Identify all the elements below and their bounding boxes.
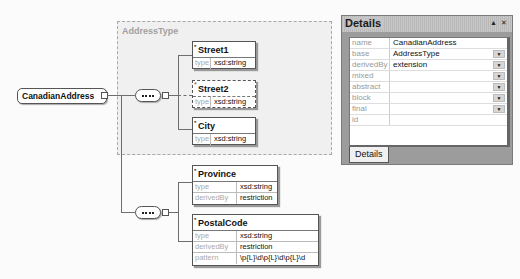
attr-value: restriction	[237, 193, 273, 204]
details-titlebar[interactable]: Details ▲ ✕	[342, 16, 512, 32]
element-icon: ▪	[194, 118, 196, 125]
attr-key: type	[193, 182, 237, 192]
details-panel: Details ▲ ✕ nameCanadianAddress baseAddr…	[341, 15, 513, 165]
close-icon[interactable]: ✕	[501, 19, 507, 27]
property-value[interactable]: CanadianAddress	[390, 38, 507, 48]
dropdown-arrow-icon[interactable]: ▼	[493, 50, 505, 58]
connector	[178, 55, 179, 130]
element-postalcode[interactable]: ▪PostalCode typexsd:string derivedByrest…	[192, 214, 319, 266]
connector	[178, 182, 179, 242]
sequence-compositor[interactable]	[135, 206, 161, 219]
root-element-name: CanadianAddress	[22, 91, 94, 101]
properties-grid: nameCanadianAddress baseAddressType▼ der…	[349, 37, 510, 147]
collapse-icon[interactable]	[101, 92, 108, 99]
property-key: abstract	[350, 82, 390, 92]
root-element[interactable]: CanadianAddress	[17, 88, 107, 104]
property-value[interactable]	[390, 115, 507, 125]
property-row-abstract[interactable]: abstract▼	[350, 82, 507, 93]
dropdown-arrow-icon[interactable]: ▼	[493, 94, 505, 102]
group-label: AddressType	[122, 26, 178, 36]
attr-value: xsd:string	[237, 231, 272, 241]
connector	[178, 55, 192, 56]
element-street1[interactable]: ▪Street1 typexsd:string	[192, 41, 256, 69]
property-row-derivedby[interactable]: derivedByextension▼	[350, 60, 507, 71]
attr-key: type	[193, 97, 211, 108]
attr-key: type	[193, 134, 211, 145]
dropdown-arrow-icon[interactable]: ▼	[493, 61, 505, 69]
element-name: PostalCode	[198, 218, 248, 228]
attr-key: type	[193, 58, 211, 69]
element-city[interactable]: ▪City typexsd:string	[192, 117, 256, 145]
optional-element-icon: *	[194, 81, 197, 88]
dropdown-arrow-icon[interactable]: ▼	[493, 105, 505, 113]
property-value[interactable]: ▼	[390, 104, 507, 114]
pin-icon[interactable]: ▲	[490, 19, 497, 26]
property-row-id[interactable]: id	[350, 115, 507, 126]
attr-value: xsd:string	[211, 97, 246, 108]
dropdown-arrow-icon[interactable]: ▼	[493, 83, 505, 91]
sequence-icon	[142, 212, 154, 214]
element-icon: ▪	[194, 215, 196, 222]
property-row-base[interactable]: baseAddressType▼	[350, 49, 507, 60]
property-value[interactable]: ▼	[390, 82, 507, 92]
connector	[178, 182, 192, 183]
property-value[interactable]: ▼	[390, 93, 507, 103]
connector	[178, 241, 192, 242]
attr-key: type	[193, 231, 237, 241]
attr-value: xsd:string	[211, 58, 246, 69]
sequence-icon	[142, 95, 154, 97]
details-title: Details	[345, 17, 384, 29]
property-row-name[interactable]: nameCanadianAddress	[350, 38, 507, 49]
element-name: Province	[198, 169, 236, 179]
connector	[168, 212, 178, 213]
sequence-compositor[interactable]	[135, 89, 161, 102]
property-row-mixed[interactable]: mixed▼	[350, 71, 507, 82]
dropdown-arrow-icon[interactable]: ▼	[493, 72, 505, 80]
property-key: base	[350, 49, 390, 59]
property-value[interactable]: AddressType▼	[390, 49, 507, 59]
element-name: Street2	[198, 84, 229, 94]
attr-value: restriction	[237, 242, 273, 252]
property-row-final[interactable]: final▼	[350, 104, 507, 115]
element-name: City	[198, 121, 215, 131]
property-value[interactable]: ▼	[390, 71, 507, 81]
element-street2[interactable]: *Street2 typexsd:string	[192, 80, 256, 108]
attr-value: xsd:string	[237, 182, 272, 192]
property-key: derivedBy	[350, 60, 390, 70]
details-tab[interactable]: Details	[349, 147, 389, 163]
attr-key: derivedBy	[193, 193, 237, 204]
property-key: mixed	[350, 71, 390, 81]
collapse-icon[interactable]	[162, 92, 169, 99]
element-name: Street1	[198, 45, 229, 55]
property-key: final	[350, 104, 390, 114]
connector-optional	[178, 95, 192, 96]
attr-key: pattern	[193, 253, 237, 264]
connector	[121, 95, 122, 213]
element-icon: ▪	[194, 42, 196, 49]
collapse-icon[interactable]	[162, 209, 169, 216]
element-province[interactable]: ▪Province typexsd:string derivedByrestri…	[192, 165, 278, 205]
property-key: block	[350, 93, 390, 103]
attr-value: \p{L}\d\p{L}\d\p{L}\d	[237, 253, 305, 264]
connector	[121, 212, 135, 213]
connector	[168, 95, 178, 96]
connector	[178, 129, 192, 130]
attr-key: derivedBy	[193, 242, 237, 252]
element-icon: ▪	[194, 166, 196, 173]
property-key: name	[350, 38, 390, 48]
property-value[interactable]: extension▼	[390, 60, 507, 70]
property-row-block[interactable]: block▼	[350, 93, 507, 104]
attr-value: xsd:string	[211, 134, 246, 145]
property-key: id	[350, 115, 390, 125]
